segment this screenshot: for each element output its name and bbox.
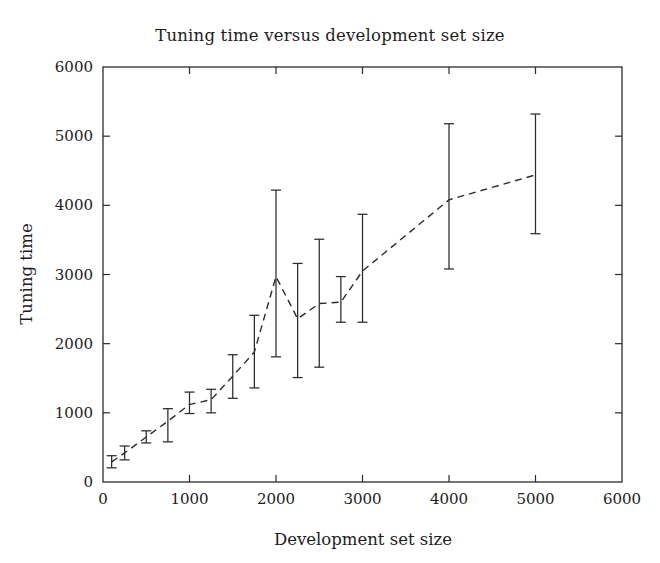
y-tick-label: 1000 (55, 404, 93, 422)
series-line (112, 175, 536, 462)
plot-area: 0100020003000400050006000 01000200030004… (0, 0, 660, 563)
error-bar (444, 124, 454, 269)
x-tick-label: 6000 (603, 490, 641, 508)
data-line (112, 175, 536, 462)
error-bar (163, 409, 173, 442)
y-tick-label: 0 (83, 473, 93, 491)
chart-svg: 0100020003000400050006000 01000200030004… (0, 0, 660, 563)
x-axis-tick-labels: 0100020003000400050006000 (98, 490, 641, 508)
error-bar (206, 389, 216, 413)
y-axis-title: Tuning time (17, 223, 36, 324)
error-bar (531, 114, 541, 234)
error-bars (107, 114, 541, 468)
y-tick-label: 4000 (55, 196, 93, 214)
x-tick-label: 4000 (430, 490, 468, 508)
x-tick-label: 1000 (170, 490, 208, 508)
error-bar (293, 263, 303, 377)
x-tick-label: 3000 (343, 490, 381, 508)
x-tick-label: 2000 (257, 490, 295, 508)
x-axis-title: Development set size (274, 530, 452, 549)
x-tick-label: 0 (98, 490, 108, 508)
y-tick-label: 3000 (55, 266, 93, 284)
error-bar (336, 277, 346, 323)
y-tick-label: 5000 (55, 127, 93, 145)
error-bar (185, 392, 195, 413)
y-axis-tick-labels: 0100020003000400050006000 (55, 58, 93, 491)
error-bar (271, 190, 281, 357)
y-tick-label: 6000 (55, 58, 93, 76)
chart-page: Tuning time versus development set size … (0, 0, 660, 563)
y-tick-label: 2000 (55, 335, 93, 353)
x-tick-label: 5000 (516, 490, 554, 508)
